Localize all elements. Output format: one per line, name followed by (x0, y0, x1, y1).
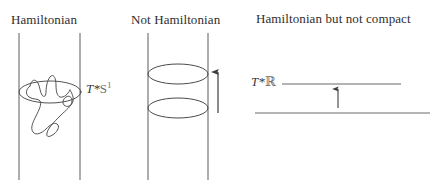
figure-canvas: Hamiltonian Not Hamiltonian Hamiltonian … (0, 0, 444, 194)
curve-upper-squiggle (30, 76, 70, 98)
cylinder-hamiltonian (19, 33, 80, 180)
curve-lower-tangle (26, 86, 73, 137)
figure-line-art (0, 0, 444, 194)
cylinder-not-hamiltonian (148, 33, 208, 180)
knotted-curve-group (19, 76, 81, 137)
lower-circle (148, 98, 208, 118)
upper-circle (148, 64, 208, 84)
noncompact-lines (255, 84, 430, 113)
